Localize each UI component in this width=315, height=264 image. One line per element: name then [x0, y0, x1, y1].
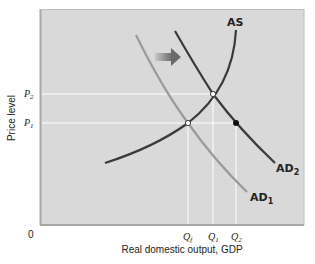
x-tick-q1: Q1 — [208, 231, 219, 244]
x-axis-title: Real domestic output, GDP — [121, 244, 242, 255]
ad-as-chart: AS AD2 AD1 P2 P1 Qf Q1 Q2 0 Real domesti… — [0, 0, 315, 264]
x-tick-qf: Qf — [183, 231, 193, 244]
as-label: AS — [227, 16, 244, 29]
new-equilibrium-point — [210, 91, 215, 96]
initial-equilibrium-point — [185, 120, 190, 125]
y-tick-p2: P2 — [23, 88, 34, 101]
y-axis-title: Price level — [6, 95, 17, 141]
ad2-at-p1-point — [233, 120, 239, 126]
x-tick-q2: Q2 — [231, 231, 242, 244]
origin-label: 0 — [28, 229, 34, 240]
y-tick-p1: P1 — [23, 117, 34, 130]
